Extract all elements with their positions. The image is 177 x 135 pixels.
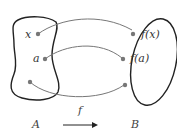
- point-fx-dot: [131, 32, 135, 36]
- point-image-third-dot: [123, 83, 127, 87]
- mapping-third-point: [30, 82, 124, 97]
- label-a: a: [33, 52, 40, 65]
- point-x-dot: [36, 32, 40, 36]
- function-mapping-diagram: x a f(x) f(a) A B f: [0, 0, 177, 135]
- function-label: f: [77, 104, 84, 117]
- set-a-label: A: [31, 118, 40, 131]
- set-b-label: B: [130, 118, 139, 131]
- mapping-x-to-fx: [38, 19, 132, 34]
- point-a-dot: [43, 57, 47, 61]
- point-fa-dot: [121, 57, 125, 61]
- function-arrow-head: [92, 122, 98, 128]
- diagram-canvas: x a f(x) f(a) A B f: [0, 0, 177, 135]
- label-x: x: [25, 28, 32, 41]
- mapping-a-to-fa: [45, 46, 122, 59]
- label-fx: f(x): [140, 28, 160, 41]
- label-fa: f(a): [129, 52, 149, 65]
- point-third-dot: [28, 80, 32, 84]
